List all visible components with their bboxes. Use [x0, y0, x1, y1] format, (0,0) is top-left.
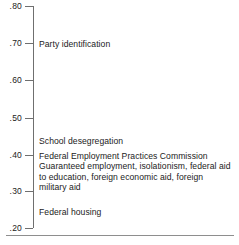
annotation-federal-housing: Federal housing: [39, 207, 237, 217]
axis-tick-5: [25, 191, 33, 192]
annotation-line: Party identification: [39, 39, 237, 49]
axis-tick-label-80: .80: [0, 2, 22, 11]
axis-tick-6: [25, 228, 33, 229]
annotation-issue-cluster: Federal Employment Practices Commission …: [39, 151, 237, 193]
scale-figure: .80 .70 .60 .50 .40 .30 .20 Party identi…: [0, 0, 239, 245]
axis-tick-3: [25, 118, 33, 119]
vertical-axis-line: [33, 6, 34, 228]
axis-tick-1: [25, 43, 33, 44]
axis-tick-label-40: .40: [0, 151, 22, 160]
axis-tick-label-30: .30: [0, 187, 22, 196]
axis-tick-4: [25, 155, 33, 156]
axis-tick-label-70: .70: [0, 39, 22, 48]
annotation-line: military aid: [39, 182, 237, 192]
annotation-party-identification: Party identification: [39, 39, 237, 49]
annotation-line: School desegregation: [39, 136, 237, 146]
annotation-line: Federal housing: [39, 207, 237, 217]
annotation-line: Guaranteed employment, isolationism, fed…: [39, 161, 237, 171]
axis-tick-label-50: .50: [0, 114, 22, 123]
annotation-school-desegregation: School desegregation: [39, 136, 237, 146]
annotation-line: to education, foreign economic aid, fore…: [39, 172, 237, 182]
axis-tick-label-60: .60: [0, 76, 22, 85]
footer-divider: [6, 235, 234, 236]
axis-tick-0: [25, 6, 33, 7]
axis-tick-label-20: .20: [0, 224, 22, 233]
axis-tick-2: [25, 80, 33, 81]
annotation-line: Federal Employment Practices Commission: [39, 151, 237, 161]
